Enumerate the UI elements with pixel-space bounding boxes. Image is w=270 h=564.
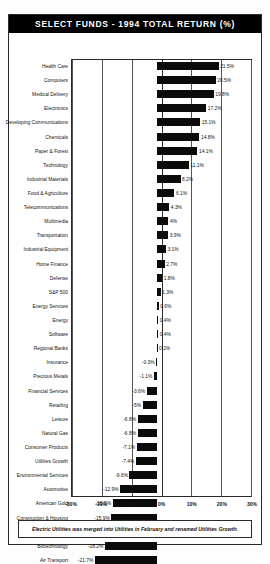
chart-row: Transportation3.9%	[9, 228, 252, 242]
chart-row: Technology11.1%	[9, 158, 252, 172]
value-label: -6.8%	[123, 416, 136, 421]
value-label: -7.1%	[122, 445, 135, 450]
value-label: -6.8%	[123, 430, 136, 435]
value-label: -7.4%	[122, 459, 135, 464]
axis-tick-label: 10%	[187, 501, 197, 507]
bar-track: 1.3%	[71, 285, 243, 299]
value-label: 0.4%	[160, 318, 171, 323]
chart-row: Retailing-5%	[9, 398, 252, 412]
bar	[157, 62, 219, 70]
value-label: 1.8%	[164, 275, 175, 280]
bar-track: 8.2%	[71, 172, 243, 186]
value-label: -0.3%	[142, 360, 155, 365]
bar-track: 14.1%	[71, 144, 243, 158]
chart-frame: SELECT FUNDS - 1994 TOTAL RETURN (%) Hea…	[8, 14, 262, 545]
bar	[157, 288, 161, 296]
category-label: Automotive	[44, 487, 68, 492]
chart-row: Air Transport-21.7%	[9, 553, 252, 564]
category-label: Telecommunications	[24, 205, 68, 210]
category-label: Regional Banks	[34, 346, 68, 351]
category-label: S&P 500	[49, 289, 68, 294]
value-label: -9.6%	[115, 473, 128, 478]
category-label: Precious Metals	[33, 374, 68, 379]
bar	[157, 133, 199, 141]
value-label: 20.5%	[217, 78, 231, 83]
chart-row: Utilities Growth-7.4%	[9, 454, 252, 468]
bar	[95, 556, 157, 564]
category-label: Industrial Equipment	[23, 247, 68, 252]
bar	[105, 542, 157, 550]
bar-track: 15.1%	[71, 115, 243, 129]
category-label: Defense	[50, 275, 68, 280]
category-label: Health Care	[42, 64, 68, 69]
bar	[120, 485, 157, 493]
category-label: Paper & Forest	[35, 148, 68, 153]
chart-row: Software0.4%	[9, 327, 252, 341]
category-label: Technology	[43, 162, 68, 167]
chart-row: Telecommunications4.3%	[9, 200, 252, 214]
bar	[137, 443, 157, 451]
category-label: Multimedia	[44, 219, 68, 224]
bar	[157, 175, 181, 183]
value-label: 6.1%	[176, 191, 187, 196]
category-label: Energy	[53, 318, 69, 323]
category-label: Leisure	[52, 416, 68, 421]
category-label: Chemicals	[45, 134, 68, 139]
chart-row: Health Care21.5%	[9, 59, 252, 73]
bar	[157, 161, 189, 169]
bar-track: 0.4%	[71, 327, 243, 341]
bar-track: -12.9%	[71, 482, 243, 496]
axis-tick-label: -30%	[65, 501, 77, 507]
chart-row: Regional Banks0.2%	[9, 341, 252, 355]
bar-track: -1.1%	[71, 369, 243, 383]
axis-tick-label: 0%	[158, 501, 165, 507]
bar	[157, 189, 174, 197]
chart-row: Chemicals14.8%	[9, 130, 252, 144]
bar-track: -7.1%	[71, 440, 243, 454]
value-label: 3.1%	[167, 247, 178, 252]
bar-track: 0.4%	[71, 313, 243, 327]
category-label: Developing Communications	[6, 120, 68, 125]
category-label: Insurance	[47, 360, 68, 365]
category-label: Transportation	[37, 233, 68, 238]
value-label: -18.2%	[88, 543, 104, 548]
plot-area: Health Care21.5%Computers20.5%Medical De…	[9, 33, 261, 518]
bar	[129, 471, 157, 479]
bar	[147, 387, 157, 395]
bar-track: -5%	[71, 398, 243, 412]
chart-row: Natural Gas-6.8%	[9, 426, 252, 440]
bar-track: 17.2%	[71, 101, 243, 115]
value-label: -3.6%	[132, 388, 145, 393]
category-label: Home Finance	[36, 261, 68, 266]
chart-row: Financial Services-3.6%	[9, 384, 252, 398]
value-label: -5%	[132, 402, 141, 407]
chart-row: Consumer Products-7.1%	[9, 440, 252, 454]
chart-row: S&P 5001.3%	[9, 285, 252, 299]
value-label: -12.9%	[103, 487, 119, 492]
bar	[157, 203, 169, 211]
bar-track: 20.5%	[71, 73, 243, 87]
bar-track: 4.3%	[71, 200, 243, 214]
chart-row: Automotive-12.9%	[9, 482, 252, 496]
bar-track: 3.1%	[71, 242, 243, 256]
bar	[157, 302, 159, 310]
axis-tick-label: 30%	[247, 501, 257, 507]
category-label: Industrial Materials	[27, 176, 68, 181]
bar	[138, 429, 157, 437]
category-label: Utilities Growth	[35, 459, 68, 464]
chart-row: Multimedia4%	[9, 214, 252, 228]
bar-track: 1.8%	[71, 271, 243, 285]
chart-footnote: Electric Utilities was merged into Utili…	[18, 520, 252, 538]
chart-title-bar: SELECT FUNDS - 1994 TOTAL RETURN (%)	[9, 15, 261, 33]
bar-track: 0.2%	[71, 341, 243, 355]
value-label: 15.1%	[202, 120, 216, 125]
bar-track: 14.8%	[71, 130, 243, 144]
bar-track: -9.6%	[71, 468, 243, 482]
value-label: 17.2%	[208, 106, 222, 111]
chart-row: Developing Communications15.1%	[9, 115, 252, 129]
chart-row: Medical Delivery19.8%	[9, 87, 252, 101]
bar	[157, 245, 166, 253]
bar	[157, 316, 158, 324]
chart-row: Computers20.5%	[9, 73, 252, 87]
chart-row: Leisure-6.8%	[9, 412, 252, 426]
